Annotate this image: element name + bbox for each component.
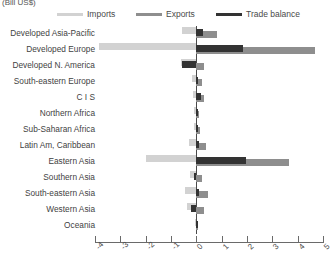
- bar-imports: [189, 139, 197, 146]
- plot-area: Developed Asia-PacificDeveloped EuropeDe…: [0, 26, 323, 244]
- bar-imports: [146, 155, 197, 162]
- bar-exports: [196, 175, 202, 182]
- category-label: Sub-Saharan Africa: [0, 125, 95, 134]
- bar-imports: [99, 43, 197, 50]
- legend-label-exports: Exports: [166, 8, 195, 21]
- category-label: C I S: [0, 93, 95, 102]
- bar-trade-balance: [196, 189, 199, 196]
- category-label: Northern Africa: [0, 109, 95, 118]
- chart-legend: Imports Exports Trade balance: [0, 8, 323, 21]
- legend-item-trade-balance: Trade balance: [216, 8, 300, 21]
- category-label: Southern Asia: [0, 173, 95, 182]
- bar-exports: [196, 207, 204, 214]
- x-axis-tick-label: 1: [221, 242, 231, 252]
- x-axis-tick-label: 2: [246, 242, 256, 252]
- bar-trade-balance: [196, 109, 197, 116]
- bar-trade-balance: [182, 61, 196, 68]
- bar-trade-balance: [196, 29, 202, 36]
- legend-label-imports: Imports: [87, 8, 115, 21]
- axis-unit-label: (Bill US$): [2, 0, 36, 7]
- x-axis-line: [95, 242, 323, 243]
- bar-trade-balance: [196, 93, 201, 100]
- category-label: Oceania: [0, 221, 95, 230]
- bar-trade-balance: [191, 205, 196, 212]
- bar-exports: [196, 63, 204, 70]
- category-axis-labels: Developed Asia-PacificDeveloped EuropeDe…: [0, 26, 95, 234]
- bar-trade-balance: [194, 173, 196, 180]
- line-swatch-icon: [57, 13, 83, 16]
- bar-trade-balance: [196, 45, 243, 52]
- bars-area: [95, 26, 323, 234]
- x-axis: -4-3-2-1012345: [95, 236, 323, 270]
- x-axis-tick-label: 0: [195, 242, 205, 252]
- line-swatch-icon: [136, 13, 162, 16]
- legend-item-imports: Imports: [57, 8, 115, 21]
- bar-trade-balance: [196, 157, 245, 164]
- category-label: South-eastern Asia: [0, 189, 95, 198]
- category-label: Eastern Asia: [0, 157, 95, 166]
- category-label: Western Asia: [0, 205, 95, 214]
- category-label: Developed N. America: [0, 61, 95, 70]
- legend-item-exports: Exports: [136, 8, 195, 21]
- bar-trade-balance: [196, 77, 198, 84]
- x-axis-tick-label: 3: [271, 242, 281, 252]
- bar-trade-balance: [196, 141, 199, 148]
- bar-imports: [182, 27, 196, 34]
- bar-imports: [185, 187, 196, 194]
- x-axis-tick-label: 4: [297, 242, 307, 252]
- category-label: South-eastern Europe: [0, 77, 95, 86]
- category-label: Developed Asia-Pacific: [0, 29, 95, 38]
- x-axis-tick-label: 5: [322, 242, 332, 252]
- line-swatch-icon: [216, 13, 242, 16]
- bar-trade-balance: [196, 125, 197, 132]
- legend-label-trade-balance: Trade balance: [246, 8, 300, 21]
- category-label: Developed Europe: [0, 45, 95, 54]
- category-label: Latin Am, Caribbean: [0, 141, 95, 150]
- bar-trade-balance: [196, 221, 197, 228]
